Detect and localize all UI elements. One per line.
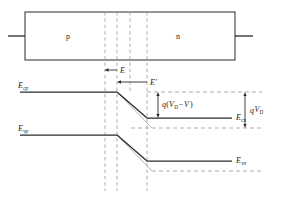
field-arrow-E (105, 68, 118, 71)
region-label-p: p (66, 32, 70, 41)
energy-reference-guides (131, 92, 262, 171)
figure-canvas: p n E E′ (0, 0, 281, 207)
field-arrow-group: E E′ (105, 66, 157, 87)
field-arrow-E-prime (117, 80, 147, 83)
label-evp: Evp (17, 124, 29, 134)
field-arrow-E-label: E (119, 66, 125, 75)
pn-junction-band-diagram: p n E E′ (0, 0, 281, 207)
builtin-potential-measure: qVD (243, 92, 263, 128)
conduction-band-edge (20, 92, 232, 118)
builtin-potential-label: qVD (250, 105, 264, 116)
device-schematic: p n (8, 12, 253, 60)
bias-gap-label: q(VD−V) (162, 100, 193, 110)
bias-gap-measure: q(VD−V) (156, 92, 193, 118)
label-ecp: Ecp (17, 81, 29, 91)
label-evn: Evn (235, 156, 247, 166)
band-edges (20, 92, 232, 161)
band-edge-labels: Ecp Evp Ecn Evn (17, 81, 247, 166)
field-arrow-E-prime-label: E′ (149, 78, 157, 87)
valence-band-edge (20, 135, 232, 161)
region-label-n: n (176, 32, 180, 41)
